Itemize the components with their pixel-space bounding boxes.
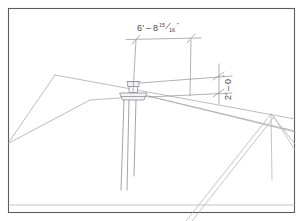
horizontal-dim-dash: –: [146, 23, 151, 33]
horizontal-dim-fraction-denominator: 16: [169, 27, 175, 33]
horizontal-dim-fraction-numerator: 15: [159, 22, 165, 28]
vertical-dim-dash: –: [223, 86, 233, 91]
vertical-dim-feet: 2': [223, 93, 233, 100]
vertical-dim-inches: 0: [223, 79, 233, 84]
horizontal-dim-inch-mark: ": [177, 22, 179, 28]
vertical-dim-inch-mark: ": [222, 75, 228, 77]
drawing-sheet: 6' – 8 15 16 " 2' – 0 ": [0, 0, 303, 221]
horizontal-dim-feet: 6': [137, 23, 144, 33]
horizontal-dim-inches: 8: [153, 23, 158, 33]
sheet-background: [0, 0, 303, 221]
